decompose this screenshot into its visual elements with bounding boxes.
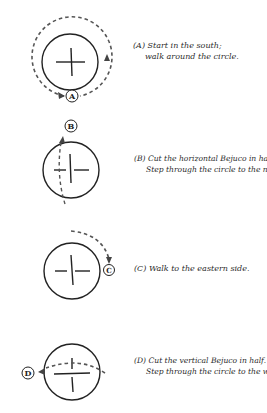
step-d-horizontal-bejuco <box>54 373 90 374</box>
step-d-arrow-left-icon <box>38 368 45 375</box>
step-b-walk-path <box>59 142 65 204</box>
step-c-caption: (C) Walk to the eastern side. <box>134 264 250 275</box>
step-b-figure: B <box>43 120 99 204</box>
step-d-caption-line2: Step through the circle to the west. <box>134 367 267 378</box>
step-b-caption: (B) Cut the horizontal Bejuco in half. S… <box>134 154 267 175</box>
step-c-marker-label: C <box>106 266 112 275</box>
step-a-figure: A <box>32 17 112 102</box>
step-d-caption: (D) Cut the vertical Bejuco in half. Ste… <box>134 356 267 377</box>
step-b-vertical-bejuco <box>70 154 71 183</box>
step-d-marker-label: D <box>25 368 32 378</box>
step-a-arrow-up-icon <box>104 54 110 61</box>
step-c-arrow-down-icon <box>106 257 112 264</box>
step-b-arrow-up-icon <box>59 136 65 143</box>
step-c-walk-path <box>71 231 109 259</box>
step-a-caption-line1: (A) Start in the south; <box>133 41 239 52</box>
step-a-arrow-into-a-icon <box>58 92 65 99</box>
step-c-figure: C <box>44 231 115 299</box>
step-c-vertical-bejuco <box>71 255 73 285</box>
step-a-vertical-bejuco <box>71 48 72 76</box>
step-d-caption-line1: (D) Cut the vertical Bejuco in half. <box>134 356 267 367</box>
step-d-walk-path <box>46 363 105 373</box>
step-b-caption-line2: Step through the circle to the north. <box>134 165 267 176</box>
step-d-bottom-half-bejuco <box>72 377 73 392</box>
step-d-circle <box>44 344 100 400</box>
step-a-marker-label: A <box>68 91 76 101</box>
step-b-marker-label: B <box>68 121 75 131</box>
step-a-caption-line2: walk around the circle. <box>133 52 239 63</box>
step-d-figure: D <box>22 344 105 400</box>
step-c-caption-line1: (C) Walk to the eastern side. <box>134 264 250 275</box>
step-a-caption: (A) Start in the south; walk around the … <box>133 41 239 62</box>
step-b-caption-line1: (B) Cut the horizontal Bejuco in half. <box>134 154 267 165</box>
